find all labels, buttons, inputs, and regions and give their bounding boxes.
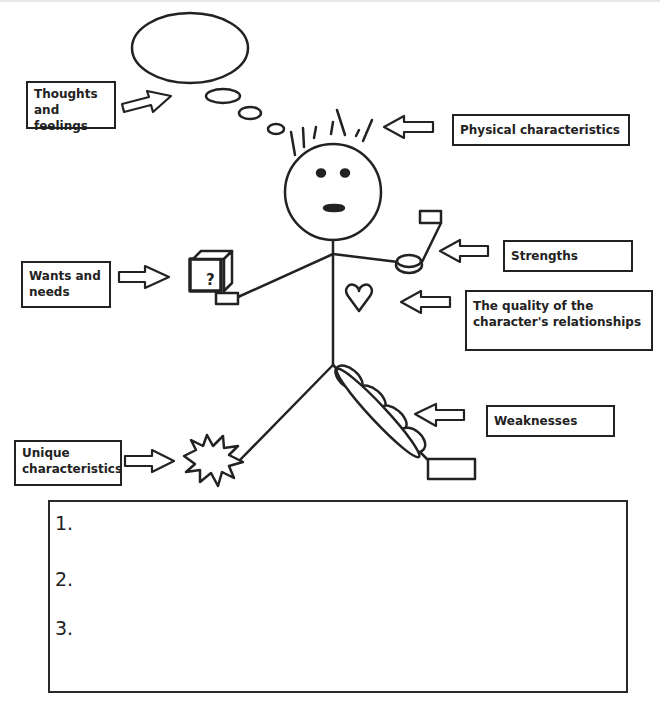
label-line: Weaknesses: [494, 413, 607, 429]
answer-item-3: 3.: [55, 617, 73, 639]
arrow-icon-wants: [119, 266, 169, 288]
starburst-icon: [184, 435, 243, 486]
answer-box[interactable]: 1. 2. 3.: [48, 500, 628, 693]
arrow-icon-weaknesses: [415, 404, 464, 426]
arrow-icon-relationships: [401, 291, 450, 313]
arrow-icon-thoughts: [122, 91, 171, 112]
label-line: Unique: [22, 445, 114, 461]
left-leg: [238, 365, 333, 462]
label-line: Physical characteristics: [460, 122, 622, 138]
answer-item-1: 1.: [55, 512, 73, 534]
right-arm: [333, 254, 398, 262]
dumbbell-icon: [396, 211, 441, 273]
hair-spikes-icon: [291, 110, 372, 155]
label-line: The quality of the: [473, 298, 645, 314]
label-line: characteristics: [22, 461, 114, 477]
answer-item-2: 2.: [55, 568, 73, 590]
label-relationships: The quality of the character's relations…: [465, 290, 653, 351]
label-line: Wants and: [29, 268, 103, 284]
arrow-icon-strengths: [440, 240, 488, 262]
label-weaknesses: Weaknesses: [486, 405, 615, 437]
label-wants-and-needs: Wants and needs: [21, 261, 111, 308]
heart-icon: [346, 285, 372, 311]
face-icon: [285, 144, 381, 240]
arrow-icon-physical: [384, 116, 433, 138]
label-line: needs: [29, 284, 103, 300]
label-thoughts-and-feelings: Thoughts and feelings: [26, 81, 116, 129]
thought-bubble-icon: [132, 13, 284, 134]
label-line: character's relationships: [473, 314, 645, 330]
left-arm: [238, 254, 333, 297]
label-unique-characteristics: Unique characteristics: [14, 440, 122, 486]
label-line: Thoughts: [34, 86, 108, 102]
arrow-icon-unique: [125, 450, 174, 472]
label-physical-characteristics: Physical characteristics: [452, 114, 630, 146]
question-mark: ?: [206, 271, 215, 289]
right-forearm: [422, 223, 441, 262]
label-strengths: Strengths: [503, 240, 633, 272]
label-line: and feelings: [34, 102, 108, 134]
label-line: Strengths: [511, 248, 625, 264]
